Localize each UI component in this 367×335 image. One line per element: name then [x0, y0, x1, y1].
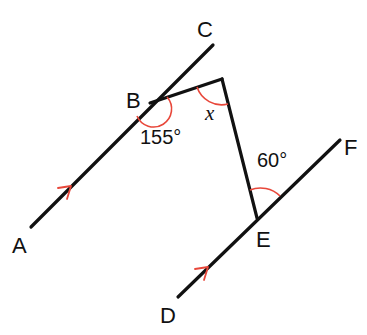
- angle-arc-e: [250, 188, 280, 196]
- point-label-e: E: [256, 227, 271, 252]
- point-label-c: C: [197, 17, 213, 42]
- point-label-f: F: [344, 135, 357, 160]
- angle-label-b: 155°: [140, 126, 181, 148]
- angle-label-x: x: [204, 101, 215, 125]
- point-label-a: A: [12, 233, 27, 258]
- geometry-diagram: A B C D E F 155° x 60°: [0, 0, 367, 335]
- angle-label-e: 60°: [257, 149, 287, 171]
- point-label-b: B: [126, 88, 141, 113]
- point-label-d: D: [160, 303, 176, 328]
- segment-vertex-e: [222, 79, 257, 218]
- line-abc: [31, 45, 213, 227]
- segment-b-vertex: [150, 79, 222, 103]
